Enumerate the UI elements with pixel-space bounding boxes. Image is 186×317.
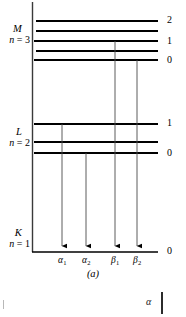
energy-level-figure: M n = 3 L n = 2 K n = 1 2 1 0 1 0 0 α1 α…	[0, 0, 186, 317]
level-number-M-0: 0	[167, 55, 181, 65]
shell-levels-L	[34, 124, 158, 153]
level-number-K-0: 0	[167, 246, 181, 256]
adjacent-figure-rule-fragment	[161, 292, 163, 314]
shell-n-value-L: = 2	[14, 137, 30, 148]
transition-sub-alpha1: 1	[63, 259, 66, 266]
shell-label-L: L n = 2	[0, 127, 30, 148]
figure-caption: (a)	[0, 268, 186, 279]
transition-sub-beta1: 1	[116, 259, 119, 266]
transition-label-alpha2: α2	[74, 256, 98, 266]
adjacent-figure-alpha-fragment: α	[146, 296, 151, 307]
shell-label-K: K n = 1	[0, 228, 30, 249]
transition-label-beta2: β2	[125, 256, 149, 266]
shell-quantum-number-K: n = 1	[0, 239, 30, 249]
shell-n-value-M: = 3	[14, 34, 30, 45]
level-number-L-1: 1	[167, 118, 181, 128]
transition-sub-beta2: 2	[138, 259, 141, 266]
transition-arrows	[62, 41, 137, 246]
shell-levels-M	[34, 21, 158, 60]
shell-quantum-number-M: n = 3	[0, 35, 30, 45]
transition-label-alpha1: α1	[50, 256, 74, 266]
page-edge-tick-mark	[3, 300, 4, 309]
transition-sub-alpha2: 2	[87, 259, 90, 266]
shell-label-M: M n = 3	[0, 24, 30, 45]
transition-label-beta1: β1	[103, 256, 127, 266]
level-number-M-1: 1	[167, 36, 181, 46]
level-number-M-2: 2	[167, 15, 181, 25]
level-number-L-0: 0	[167, 148, 181, 158]
shell-n-value-K: = 1	[14, 238, 30, 249]
shell-quantum-number-L: n = 2	[0, 138, 30, 148]
